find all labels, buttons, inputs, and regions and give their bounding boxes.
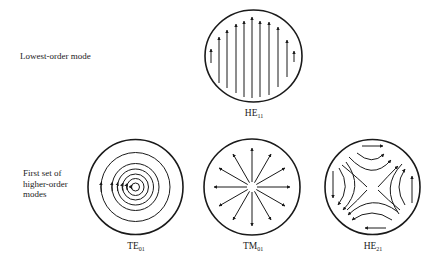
radial-field-arrows [214, 148, 290, 226]
mode-label-tm01: TM01 [233, 241, 273, 252]
mode-name: TE [127, 241, 139, 251]
mode-index: 11 [257, 113, 263, 119]
mode-name: TM [243, 241, 257, 251]
mode-index: 01 [257, 246, 263, 252]
hyperbolic-field-lines [333, 146, 412, 228]
mode-he11-diagram [205, 10, 302, 102]
mode-label-he11: HE11 [234, 108, 274, 119]
fiber-core-circle [88, 140, 183, 235]
mode-diagram [0, 0, 442, 261]
mode-te01-diagram [88, 140, 183, 235]
mode-he21-diagram [325, 140, 420, 235]
fiber-core-circle [325, 140, 420, 235]
field-arrows [211, 17, 294, 98]
mode-tm01-diagram [204, 139, 300, 235]
mode-index: 01 [139, 246, 145, 252]
mode-label-he21: HE21 [353, 241, 393, 252]
mode-label-te01: TE01 [116, 241, 156, 252]
mode-name: HE [364, 241, 377, 251]
mode-index: 21 [376, 246, 382, 252]
mode-name: HE [245, 108, 258, 118]
